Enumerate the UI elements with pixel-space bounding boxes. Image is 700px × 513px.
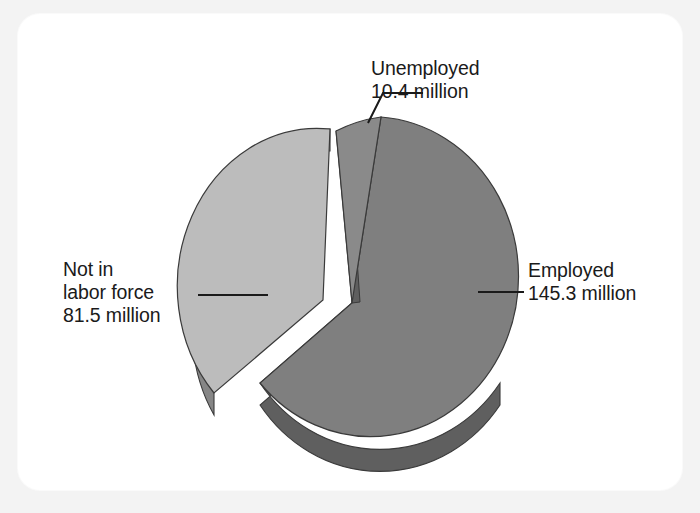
label-not-in-labor-force-line2: labor force (63, 281, 160, 304)
label-employed-line1: Employed (528, 259, 636, 282)
label-unemployed-line1: Unemployed (371, 57, 479, 80)
label-unemployed: Unemployed 10.4 million (371, 57, 479, 103)
pie-chart (0, 0, 700, 513)
label-employed: Employed 145.3 million (528, 259, 636, 305)
label-not-in-labor-force: Not in labor force 81.5 million (63, 258, 160, 327)
label-not-in-labor-force-line1: Not in (63, 258, 160, 281)
label-unemployed-line2: 10.4 million (371, 80, 479, 103)
label-not-in-labor-force-line3: 81.5 million (63, 304, 160, 327)
chart-page: Unemployed 10.4 million Not in labor for… (0, 0, 700, 513)
label-employed-line2: 145.3 million (528, 282, 636, 305)
